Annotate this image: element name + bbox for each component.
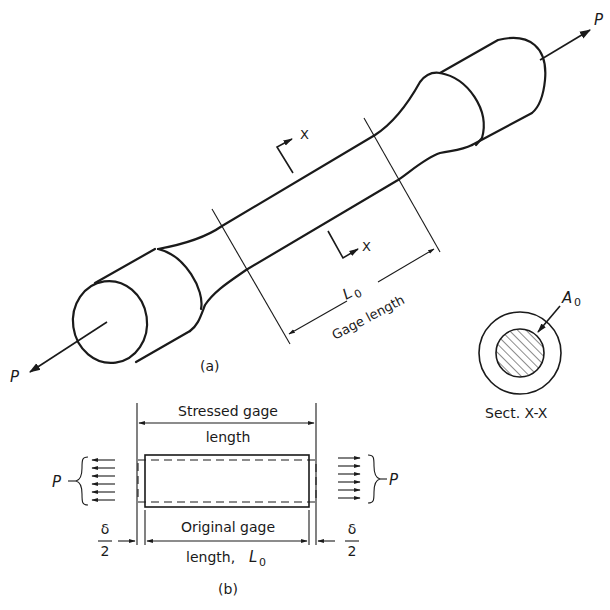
hatched-area [496, 329, 544, 377]
part-b: Stressed gage length P [52, 403, 399, 597]
svg-text:X: X [362, 239, 371, 254]
original-bar [145, 455, 309, 507]
gage-dimension-line-b [378, 249, 434, 282]
left-shoulder-arc [158, 249, 202, 309]
right-grip-outline [440, 38, 545, 145]
load-arrow-left [30, 322, 107, 372]
gage-mark-right [364, 118, 440, 252]
caption-b: (b) [218, 581, 238, 597]
load-label-right: P [594, 11, 604, 29]
svg-text:0: 0 [259, 556, 266, 569]
section-marker-top: X [277, 127, 309, 173]
load-label-left: P [10, 368, 20, 386]
load-arrows-right [338, 455, 387, 503]
svg-text:Gage length: Gage length [329, 292, 407, 343]
delta-half-left: δ 2 [98, 521, 112, 559]
left-end-face [68, 276, 153, 368]
area-leader-arrow [538, 306, 560, 332]
svg-text:2: 2 [101, 543, 110, 559]
svg-text:X: X [300, 127, 309, 142]
gage-length-label: Gage length [329, 292, 407, 343]
gage-symbol-label: L 0 [339, 280, 364, 307]
svg-text:L: L [249, 548, 257, 566]
section-marker-bottom: X [328, 231, 371, 258]
svg-text:δ: δ [348, 521, 357, 537]
stressed-label-1: Stressed gage [178, 403, 278, 419]
area-sub: 0 [574, 296, 581, 309]
delta-half-right: δ 2 [345, 521, 359, 559]
section-caption: Sect. X-X [485, 405, 548, 421]
svg-text:length,: length, [186, 549, 235, 565]
area-symbol: A [561, 289, 572, 307]
tensile-test-diagram: P P L 0 Gage length X X (a) A 0 Sect. X-… [0, 0, 610, 610]
specimen [68, 38, 546, 368]
right-shoulder-arc [440, 73, 484, 145]
original-label-2: length, L 0 [186, 548, 266, 569]
gage-top-edge [158, 73, 440, 249]
original-label-1: Original gage [181, 519, 275, 535]
stressed-label-2: length [206, 429, 251, 445]
stressed-bar-dashed [138, 460, 316, 502]
load-arrow-right [540, 30, 590, 60]
caption-a: (a) [200, 358, 220, 374]
cross-section: A 0 Sect. X-X [479, 289, 581, 421]
svg-text:δ: δ [101, 521, 110, 537]
gage-mark-left [212, 209, 290, 344]
load-arrows-left [68, 457, 115, 505]
load-label-b-right: P [389, 471, 399, 489]
load-label-b-left: P [52, 473, 62, 491]
svg-text:2: 2 [348, 543, 357, 559]
